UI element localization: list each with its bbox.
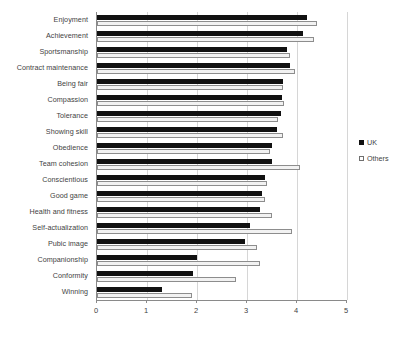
legend-label: Others [367,154,389,163]
bar-others [97,69,295,74]
bar-row [97,236,347,252]
filled-square-icon [359,140,364,145]
bar-uk [97,271,193,276]
bar-others [97,117,278,122]
category-label: Achievement [0,28,92,44]
bar-uk [97,79,283,84]
x-axis-tick-labels: 012345 [0,300,419,320]
bar-uk [97,287,162,292]
bar-others [97,133,283,138]
bar-row [97,44,347,60]
bar-uk [97,47,287,52]
category-label: Contract maintenance [0,60,92,76]
bar-uk [97,191,262,196]
category-label: Conscientious [0,172,92,188]
category-label: Self-actualization [0,220,92,236]
chart-legend: UKOthers [359,138,417,170]
category-label: Good game [0,188,92,204]
legend-item: Others [359,154,417,163]
bar-others [97,165,300,170]
bar-row [97,108,347,124]
bar-others [97,101,284,106]
bar-others [97,181,267,186]
horizontal-bar-chart: EnjoymentAchievementSportsmanshipContrac… [0,0,419,345]
gridline [347,12,348,300]
bar-uk [97,31,303,36]
bar-uk [97,127,277,132]
bar-row [97,220,347,236]
category-label: Enjoyment [0,12,92,28]
category-axis-labels: EnjoymentAchievementSportsmanshipContrac… [0,12,92,300]
bar-others [97,213,272,218]
bar-others [97,21,317,26]
bar-uk [97,239,245,244]
bar-row [97,172,347,188]
category-label: Compassion [0,92,92,108]
bar-others [97,149,270,154]
category-label: Health and fitness [0,204,92,220]
category-label: Conformity [0,268,92,284]
category-label: Tolerance [0,108,92,124]
x-axis-tick-label: 2 [194,306,198,315]
plot-area [96,12,347,300]
bar-row [97,188,347,204]
bar-row [97,28,347,44]
bar-uk [97,63,290,68]
category-label: Being fair [0,76,92,92]
category-label: Winning [0,284,92,300]
bar-uk [97,15,307,20]
bar-row [97,156,347,172]
x-axis-tick-label: 1 [144,306,148,315]
bar-row [97,76,347,92]
bar-row [97,92,347,108]
bar-uk [97,111,281,116]
bar-uk [97,207,260,212]
bar-row [97,124,347,140]
bar-uk [97,223,250,228]
bar-row [97,140,347,156]
bar-uk [97,255,197,260]
legend-item: UK [359,138,417,147]
outlined-square-icon [359,156,364,161]
category-label: Showing skill [0,124,92,140]
category-label: Team cohesion [0,156,92,172]
bar-others [97,261,260,266]
bar-others [97,245,257,250]
bar-others [97,37,314,42]
x-axis-tick-label: 5 [344,306,348,315]
legend-label: UK [367,138,377,147]
bar-others [97,197,265,202]
bar-rows [97,12,347,300]
bar-row [97,12,347,28]
x-axis-tick-label: 3 [244,306,248,315]
x-axis-tick-label: 4 [294,306,298,315]
x-axis-tick-label: 0 [94,306,98,315]
bar-others [97,293,192,298]
bar-uk [97,159,272,164]
bar-row [97,204,347,220]
category-label: Pubic image [0,236,92,252]
bar-uk [97,175,265,180]
bar-uk [97,143,272,148]
bar-row [97,60,347,76]
bar-others [97,277,236,282]
category-label: Obedience [0,140,92,156]
bar-uk [97,95,282,100]
bar-row [97,268,347,284]
bar-others [97,53,290,58]
category-label: Companionship [0,252,92,268]
category-label: Sportsmanship [0,44,92,60]
bar-row [97,284,347,300]
bar-others [97,229,292,234]
bar-row [97,252,347,268]
bar-others [97,85,283,90]
